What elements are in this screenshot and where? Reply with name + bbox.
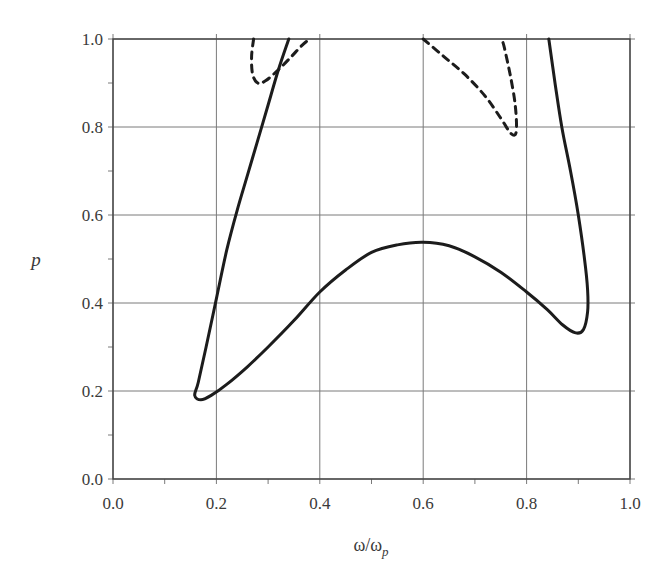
x-tick-label: 0.4 <box>309 494 331 513</box>
y-tick-label: 0.8 <box>82 118 103 137</box>
y-tick-label: 1.0 <box>82 30 103 49</box>
x-axis-ticks: 0.00.20.40.60.81.0 <box>102 494 640 513</box>
y-tick-label: 0.6 <box>82 206 103 225</box>
x-tick-label: 0.2 <box>206 494 227 513</box>
x-axis-label: ω/ωp <box>353 535 389 559</box>
plot-frame <box>113 39 630 479</box>
chart: 0.00.20.40.60.81.0 0.00.20.40.60.81.0 p … <box>0 0 668 572</box>
y-tick-label: 0.4 <box>82 294 104 313</box>
y-tick-label: 0.0 <box>82 470 103 489</box>
series-dashed-right <box>423 39 516 135</box>
x-tick-label: 0.8 <box>516 494 537 513</box>
x-axis-label-main: ω/ω <box>353 535 382 555</box>
x-tick-label: 1.0 <box>619 494 640 513</box>
x-tick-label: 0.6 <box>413 494 434 513</box>
y-axis-ticks: 0.00.20.40.60.81.0 <box>82 30 104 489</box>
minor-ticks <box>108 83 578 484</box>
x-tick-label: 0.0 <box>102 494 123 513</box>
series-layer <box>195 39 588 400</box>
gridlines <box>108 34 635 484</box>
y-tick-label: 0.2 <box>82 382 103 401</box>
x-axis-label-subscript: p <box>381 544 389 559</box>
y-axis-label: p <box>29 249 41 270</box>
series-solid-boundary <box>195 39 588 400</box>
